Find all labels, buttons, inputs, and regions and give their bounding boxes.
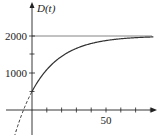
y-axis-arrow-icon (30, 2, 35, 8)
dashed-extension (7, 92, 32, 136)
x-tick-label-50: 50 (101, 114, 113, 126)
y-axis-label: D(t) (36, 2, 56, 15)
y-tick-label-1000: 1000 (5, 67, 28, 79)
solid-curve (32, 37, 153, 92)
x-axis-arrow-icon (151, 108, 157, 113)
y-tick-label-2000: 2000 (5, 30, 28, 42)
chart: D(t) 2000 1000 50 (0, 0, 161, 135)
